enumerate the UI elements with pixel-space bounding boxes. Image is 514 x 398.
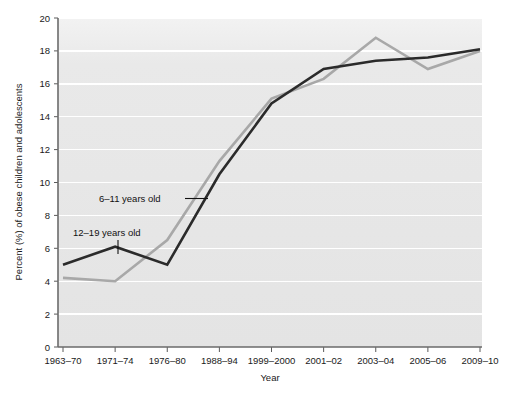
- y-axis-title: Percent (%) of obese children and adoles…: [13, 83, 24, 280]
- chart-canvas: 02468101214161820 1963–701971–741976–801…: [0, 0, 514, 398]
- y-tick-label: 18: [39, 45, 50, 56]
- x-axis-title: Year: [260, 372, 279, 383]
- y-tick-label: 6: [45, 243, 50, 254]
- x-tick-label: 2001–02: [305, 355, 342, 366]
- x-tick-label: 2003–04: [357, 355, 394, 366]
- x-tick-labels: 1963–701971–741976–801988–941999–2000200…: [45, 355, 499, 366]
- y-tick-label: 14: [39, 111, 50, 122]
- annotation-label-12-19: 12–19 years old: [73, 227, 141, 238]
- y-tick-label: 12: [39, 144, 50, 155]
- x-tick-label: 2005–06: [409, 355, 446, 366]
- y-tick-label: 16: [39, 78, 50, 89]
- x-tick-label: 1963–70: [45, 355, 82, 366]
- x-tick-label: 1971–74: [97, 355, 134, 366]
- x-tick-label: 2009–10: [462, 355, 499, 366]
- x-tick-label: 1976–80: [149, 355, 186, 366]
- y-tick-label: 4: [45, 276, 50, 287]
- y-tick-label: 20: [39, 13, 50, 24]
- x-tick-label: 1988–94: [201, 355, 238, 366]
- obesity-trend-chart: 02468101214161820 1963–701971–741976–801…: [0, 0, 514, 398]
- annotation-label-6-11: 6–11 years old: [99, 193, 161, 204]
- y-tick-label: 8: [45, 210, 50, 221]
- y-tick-label: 10: [39, 177, 50, 188]
- y-tick-label: 2: [45, 309, 50, 320]
- y-tick-label: 0: [45, 342, 50, 353]
- x-tick-label: 1999–2000: [248, 355, 296, 366]
